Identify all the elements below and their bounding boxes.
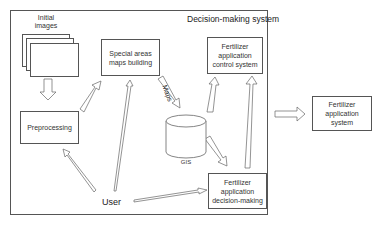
arrow-gis-to-control (207, 77, 219, 112)
arrow-gis-to-decision (205, 136, 227, 166)
application-system-box: Fertilizer application system (312, 96, 372, 131)
arrow-system-to-application (275, 107, 305, 121)
user-label: User (102, 197, 121, 207)
preprocessing-box: Preprocessing (20, 111, 79, 144)
gis-cylinder (166, 115, 206, 158)
decision-making-box: Fertilizer application decision-making (208, 173, 267, 209)
initial-images-label: Initial images (28, 14, 64, 30)
arrow-user-to-decision (134, 188, 207, 202)
arrow-decision-to-control (245, 76, 257, 168)
gis-label: GIS (178, 158, 194, 166)
control-system-box: Fertilizer application control system (207, 37, 263, 74)
arrow-preprocessing-to-special (80, 81, 101, 112)
application-system-label: Fertilizer application system (317, 100, 367, 127)
arrow-user-to-preprocessing (63, 149, 96, 192)
image-stack-front (30, 43, 79, 77)
control-system-label: Fertilizer application control system (212, 42, 258, 69)
decision-making-label: Fertilizer application decision-making (212, 178, 263, 205)
arrow-user-to-special (114, 80, 133, 191)
special-areas-maps-box: Special areas maps building (101, 39, 160, 76)
special-areas-label: Special areas maps building (106, 49, 155, 67)
arrow-images-to-preprocessing (40, 79, 56, 100)
preprocessing-label: Preprocessing (27, 123, 72, 132)
